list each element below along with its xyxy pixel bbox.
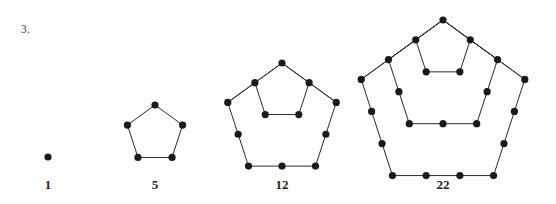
pentagon-edge [372, 111, 382, 143]
figure-1 [44, 153, 51, 160]
pentagon-edge [388, 60, 398, 92]
pentagon-dot [412, 36, 419, 43]
pentagon-edge [127, 105, 155, 125]
pentagon-dot [245, 163, 252, 170]
pentagon-dot [494, 56, 501, 63]
pentagon-dot [295, 111, 302, 118]
pentagon-dot [484, 88, 491, 95]
pentagon-dots [358, 16, 529, 179]
pentagon-dot [467, 36, 474, 43]
pentagon-dot [278, 163, 285, 170]
pentagon-edges [127, 105, 182, 157]
pentagon-dot [423, 172, 430, 179]
pentagon-edge [361, 60, 388, 80]
pentagon-edge [127, 125, 138, 157]
pentagon-edge [326, 102, 336, 134]
pentagon-edge [477, 92, 487, 124]
pentagon-edge [416, 40, 426, 72]
pentagon-dot [278, 59, 285, 66]
figure-3 [224, 59, 340, 169]
pentagon-edge [255, 63, 282, 83]
pentagon-edge [255, 83, 265, 115]
pentagon-dot [439, 16, 446, 23]
pentagon-dot [179, 121, 186, 128]
pentagon-dot [168, 154, 175, 161]
pentagon-dot [224, 99, 231, 106]
pentagon-dot [456, 68, 463, 75]
pentagon-dot [395, 88, 402, 95]
pentagon-dot [124, 121, 131, 128]
pentagon-dot [385, 56, 392, 63]
pentagon-dot [500, 140, 507, 147]
pentagon-dot [134, 154, 141, 161]
pentagon-edge [172, 125, 183, 157]
pentagon-edge [460, 40, 470, 72]
pentagon-edge [309, 83, 336, 103]
pentagon-edges [361, 20, 525, 176]
pentagon-dot [490, 172, 497, 179]
figure-2 [124, 101, 186, 161]
pentagon-dot [235, 131, 242, 138]
pentagon-edge [238, 134, 248, 166]
pentagon-dot [389, 172, 396, 179]
pentagon-edge [504, 111, 514, 143]
pentagon-edge [316, 134, 326, 166]
pentagon-edge [228, 102, 238, 134]
pentagon-edge [498, 60, 525, 80]
pentagon-dot [262, 111, 269, 118]
figure-1-caption: 1 [45, 178, 52, 191]
pentagon-edge [282, 63, 309, 83]
pentagon-dot [358, 76, 365, 83]
pentagon-dot [473, 120, 480, 127]
pentagon-dot [511, 108, 518, 115]
pentagon-edge [487, 60, 497, 92]
pentagon-dot [151, 101, 158, 108]
pentagon-edge [361, 79, 371, 111]
pentagon-dot [406, 120, 413, 127]
pentagon-dot [423, 68, 430, 75]
pentagon-dot [368, 108, 375, 115]
pentagon-dots [124, 101, 186, 161]
pentagon-edge [155, 105, 183, 125]
pentagon-edge [443, 20, 470, 40]
pentagon-edge [514, 79, 524, 111]
figure-4 [358, 16, 529, 179]
pentagon-edge [299, 83, 309, 115]
figure-4-caption: 22 [437, 178, 450, 191]
figure-3-caption: 12 [276, 178, 289, 191]
pentagon-dot [439, 120, 446, 127]
pentagon-edge [470, 40, 497, 60]
pentagon-dot [251, 79, 258, 86]
pentagon-dot [306, 79, 313, 86]
pentagon-figures-diagram [0, 0, 556, 204]
pentagon-edges [228, 63, 336, 166]
pentagon-dot [322, 131, 329, 138]
pentagon-edge [382, 144, 392, 176]
pentagon-edge [399, 92, 409, 124]
figure-2-caption: 5 [152, 178, 159, 191]
pentagon-dot [378, 140, 385, 147]
pentagon-edge [494, 144, 504, 176]
pentagon-dot [312, 163, 319, 170]
pentagon-edge [388, 40, 415, 60]
pentagon-dot [456, 172, 463, 179]
pentagon-dot [333, 99, 340, 106]
pentagon-dot [44, 153, 51, 160]
pentagon-edge [228, 83, 255, 103]
pentagon-edge [416, 20, 443, 40]
pentagon-dot [521, 76, 528, 83]
